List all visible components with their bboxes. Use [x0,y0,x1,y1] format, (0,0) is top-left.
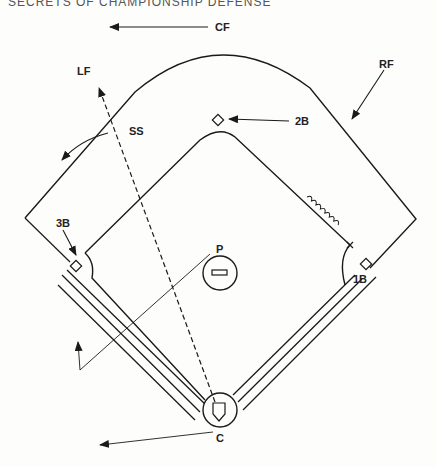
third-base-foul-line [58,270,207,420]
label-lf: LF [77,65,91,77]
left-fielder-route [99,88,215,402]
outfield-boundary [25,55,416,268]
baseball-field-diagram: CF LF RF SS 2B 3B 1B P C [0,0,437,467]
label-2b: 2B [295,115,309,127]
label-1b: 1B [353,273,367,285]
label-cf: CF [215,21,230,33]
home-plate-circle [203,393,237,427]
pitcher-route [78,254,210,370]
first-base-x-mark [347,242,353,248]
second-base-arrow [229,119,289,121]
label-p: P [216,243,223,255]
pitchers-rubber [212,270,227,275]
shortstop-arrow [62,133,108,160]
third-base-arrow [63,230,76,255]
infield-outline [85,132,350,285]
right-fielder-arrow [352,70,384,119]
catcher-arrow [100,432,213,445]
pitchers-mound [203,256,237,290]
label-3b: 3B [56,217,70,229]
third-base-icon [70,260,81,271]
first-base-foul-line [233,275,376,410]
second-base-icon [212,114,223,125]
label-ss: SS [129,125,144,137]
label-c: C [216,432,224,444]
label-rf: RF [379,58,394,70]
